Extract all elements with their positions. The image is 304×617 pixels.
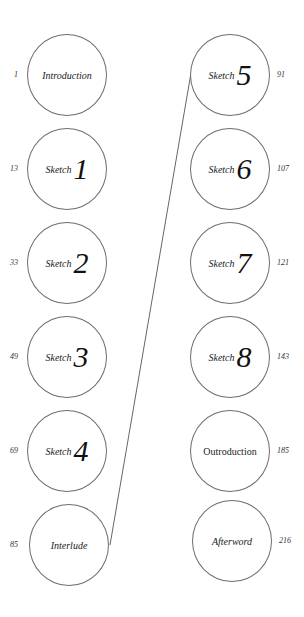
node-label: Outroduction bbox=[203, 446, 256, 457]
page-number: 216 bbox=[279, 537, 291, 545]
page-number: 85 bbox=[0, 541, 18, 549]
node-label: Sketch bbox=[208, 352, 234, 363]
node-sketch-8[interactable]: Sketch 8 bbox=[190, 316, 270, 398]
node-label: Sketch bbox=[45, 446, 71, 457]
page-number: 33 bbox=[0, 259, 18, 267]
page-number: 13 bbox=[0, 165, 18, 173]
node-label: Sketch bbox=[208, 258, 234, 269]
page-number: 185 bbox=[277, 447, 289, 455]
page-number: 1 bbox=[0, 71, 18, 79]
node-sketch-2[interactable]: Sketch 2 bbox=[27, 222, 107, 304]
node-numeral: 3 bbox=[74, 342, 89, 372]
node-introduction[interactable]: Introduction bbox=[27, 34, 107, 116]
node-label: Sketch bbox=[208, 164, 234, 175]
node-interlude[interactable]: Interlude bbox=[29, 504, 109, 586]
node-numeral: 4 bbox=[74, 436, 89, 466]
node-label: Interlude bbox=[51, 540, 88, 551]
node-sketch-6[interactable]: Sketch 6 bbox=[190, 128, 270, 210]
node-afterword[interactable]: Afterword bbox=[192, 500, 272, 582]
node-sketch-4[interactable]: Sketch 4 bbox=[27, 410, 107, 492]
node-numeral: 2 bbox=[74, 248, 89, 278]
node-sketch-7[interactable]: Sketch 7 bbox=[190, 222, 270, 304]
node-label: Sketch bbox=[45, 258, 71, 269]
page-number: 49 bbox=[0, 353, 18, 361]
page-number: 69 bbox=[0, 447, 18, 455]
node-label: Introduction bbox=[42, 70, 92, 81]
node-label: Sketch bbox=[208, 70, 234, 81]
node-label: Sketch bbox=[45, 352, 71, 363]
node-sketch-5[interactable]: Sketch 5 bbox=[190, 34, 270, 116]
node-label: Sketch bbox=[45, 164, 71, 175]
page-number: 143 bbox=[277, 353, 289, 361]
node-numeral: 1 bbox=[74, 154, 89, 184]
node-numeral: 5 bbox=[237, 60, 252, 90]
page-number: 91 bbox=[277, 71, 285, 79]
node-numeral: 7 bbox=[237, 248, 252, 278]
node-sketch-1[interactable]: Sketch 1 bbox=[27, 128, 107, 210]
page-number: 121 bbox=[277, 259, 289, 267]
node-outroduction[interactable]: Outroduction bbox=[190, 410, 270, 492]
page-number: 107 bbox=[277, 165, 289, 173]
node-numeral: 8 bbox=[237, 342, 252, 372]
node-label: Afterword bbox=[212, 536, 252, 547]
node-sketch-3[interactable]: Sketch 3 bbox=[27, 316, 107, 398]
node-numeral: 6 bbox=[237, 154, 252, 184]
